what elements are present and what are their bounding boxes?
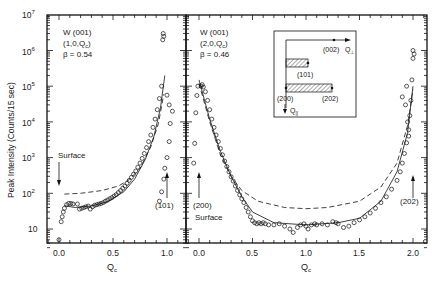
svg-text:β = 0.54: β = 0.54 bbox=[63, 50, 93, 59]
svg-text:1.0: 1.0 bbox=[300, 248, 312, 258]
fit-curves bbox=[64, 76, 413, 225]
plot-frames bbox=[47, 15, 427, 243]
svg-text:0.5: 0.5 bbox=[246, 248, 258, 258]
y-tick-labels: 107 106 105 104 103 102 10 bbox=[22, 9, 38, 234]
svg-text:(101): (101) bbox=[297, 71, 313, 79]
svg-text:0.5: 0.5 bbox=[107, 248, 119, 258]
left-panel-annotation: W (001) (1,0,Qc) β = 0.54 bbox=[63, 28, 93, 59]
x-axis-label-left: Qc bbox=[107, 262, 117, 273]
x-tick-labels-right: 0.0 0.5 1.0 1.5 2.0 bbox=[193, 248, 419, 258]
y-axis-label: Peak Intensity (Counts/15 sec) bbox=[6, 82, 16, 198]
figure: Peak Intensity (Counts/15 sec) 107 106 1… bbox=[0, 0, 436, 281]
axis-ticks bbox=[47, 15, 427, 248]
svg-text:(202): (202) bbox=[322, 95, 338, 103]
svg-text:W (001): W (001) bbox=[200, 28, 229, 37]
x-tick-labels-left: 0.0 0.5 1.0 bbox=[53, 248, 173, 258]
svg-text:W (001): W (001) bbox=[63, 28, 92, 37]
svg-text:102: 102 bbox=[22, 188, 35, 199]
inset-diagram: (002) Q⊥ (101) (200) (202) Q|| bbox=[274, 31, 356, 117]
right-panel-annotation: W (001) (2,0,Qc) β = 0.46 bbox=[200, 28, 230, 59]
svg-text:2.0: 2.0 bbox=[407, 248, 419, 258]
svg-text:(1,0,Qc): (1,0,Qc) bbox=[63, 39, 91, 49]
svg-text:(002): (002) bbox=[323, 46, 339, 54]
svg-text:105: 105 bbox=[22, 81, 35, 92]
svg-text:107: 107 bbox=[22, 9, 35, 20]
svg-text:Surface: Surface bbox=[195, 213, 223, 222]
svg-text:106: 106 bbox=[22, 46, 35, 57]
data-points bbox=[57, 32, 416, 242]
svg-text:0.0: 0.0 bbox=[193, 248, 205, 258]
svg-text:0.0: 0.0 bbox=[53, 248, 65, 258]
svg-text:104: 104 bbox=[22, 117, 35, 128]
svg-text:Surface: Surface bbox=[58, 151, 86, 160]
svg-text:β = 0.46: β = 0.46 bbox=[200, 50, 230, 59]
svg-text:(202): (202) bbox=[400, 197, 419, 206]
svg-text:10: 10 bbox=[28, 224, 38, 234]
svg-text:103: 103 bbox=[22, 152, 35, 163]
svg-text:(200): (200) bbox=[277, 95, 293, 103]
svg-text:1.0: 1.0 bbox=[161, 248, 173, 258]
svg-text:1.5: 1.5 bbox=[353, 248, 365, 258]
svg-text:(200): (200) bbox=[193, 201, 212, 210]
arrow-annotations: Surface (101) (200) Surface (202) bbox=[57, 151, 419, 222]
svg-text:(2,0,Qc): (2,0,Qc) bbox=[200, 39, 228, 49]
x-axis-label-right: Qc bbox=[301, 262, 311, 273]
